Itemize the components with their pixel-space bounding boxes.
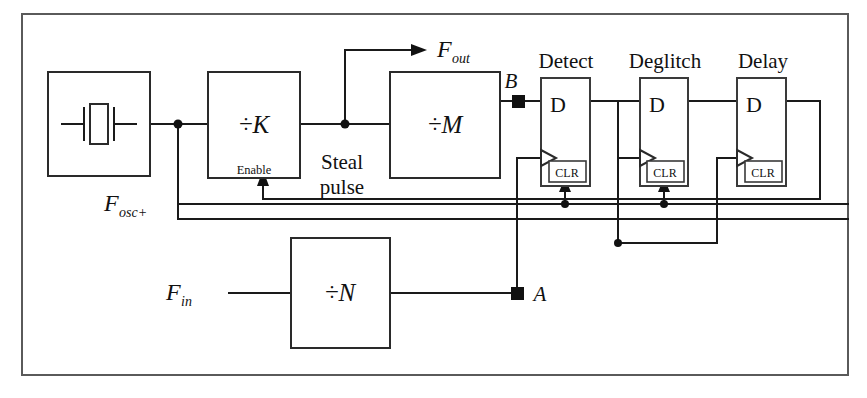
node-b-label: B [505,69,518,93]
ff-detect-d-label: D [550,92,566,117]
divide-n-label: ÷N [325,279,357,306]
diagram-canvas: ÷K Enable ÷M ÷N Detect Deglitch Delay D … [0,0,867,398]
f-out-sub: out [452,51,471,66]
divide-k-enable-label: Enable [237,163,272,177]
figure-frame [22,14,848,375]
ff-delay-d-label: D [746,92,762,117]
f-in-label: F in [165,279,192,309]
node-a-label: A [532,282,547,306]
ff-deglitch-clr-label: CLR [653,166,676,180]
wire-nodea-to-detect-clk [517,158,541,293]
f-in-sub: in [181,294,192,309]
junction-clr-detect [561,200,569,208]
junction-steal [341,120,350,129]
ff-detect-title: Detect [539,49,594,73]
junction-fosc [174,120,183,129]
ff-deglitch-d-label: D [649,92,665,117]
f-osc-base: F [103,190,119,216]
divide-m-label: ÷M [428,111,464,138]
junction-nodeb-bus [614,239,622,247]
ff-delay-title: Delay [738,49,789,73]
circuit-diagram: ÷K Enable ÷M ÷N Detect Deglitch Delay D … [0,0,867,398]
ff-deglitch-title: Deglitch [629,49,702,73]
ff-detect-clr-label: CLR [555,166,578,180]
ff-delay-clr-label: CLR [751,166,774,180]
junction-clr-deglitch [660,200,668,208]
f-osc-sub: osc+ [119,205,147,220]
f-out-label: F out [436,36,471,66]
steal-pulse-line1: Steal [321,150,363,174]
f-osc-label: F osc+ [103,190,147,220]
steal-pulse-line2: pulse [320,175,364,199]
node-a-marker [511,287,524,300]
node-b-marker [512,95,525,108]
f-out-base: F [436,36,452,62]
arrow-fout [411,44,427,56]
divide-k-label: ÷K [239,111,271,138]
f-in-base: F [165,279,181,305]
